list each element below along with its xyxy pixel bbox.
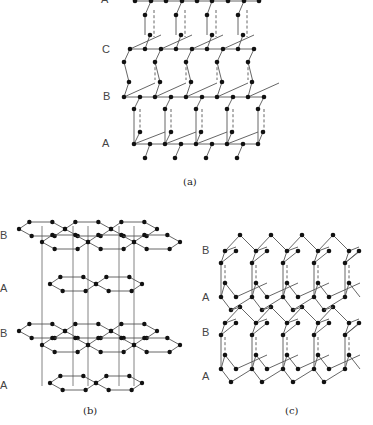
panel-b-structure	[17, 220, 182, 392]
panel-b-label-layer-1: B	[0, 230, 7, 241]
panel-c-caption: (c)	[285, 406, 298, 416]
panel-a-structure	[122, 0, 279, 160]
panel-b-label-layer-4: A	[0, 380, 7, 391]
structure-drawings	[0, 0, 373, 425]
panel-c-label-layer-4: A	[202, 371, 209, 382]
panel-a-caption: (a)	[183, 177, 197, 187]
panel-a-label-layer-2: C	[102, 44, 110, 55]
panel-a-label-layer-1: A	[101, 0, 108, 5]
panel-c-label-layer-2: A	[202, 292, 209, 303]
crystal-structure-figure: A C B A (a) B A B A (b) B A B A (c)	[0, 0, 373, 425]
panel-b-caption: (b)	[83, 406, 97, 416]
panel-b-label-layer-3: B	[0, 328, 7, 339]
panel-a-label-layer-3: B	[103, 91, 110, 102]
panel-c-label-layer-3: B	[202, 327, 209, 338]
panel-a-label-layer-4: A	[102, 138, 109, 149]
panel-c-structure	[219, 233, 362, 385]
panel-b-label-layer-2: A	[0, 283, 7, 294]
panel-c-label-layer-1: B	[202, 245, 209, 256]
